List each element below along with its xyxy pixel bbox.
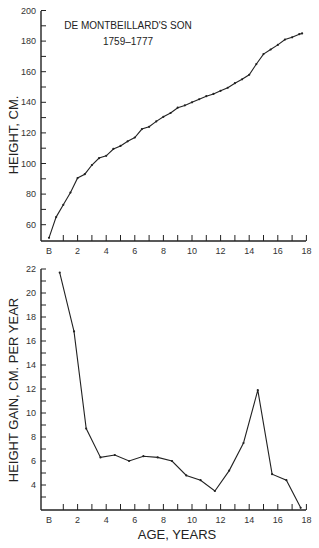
x-tick-label: 12 xyxy=(216,515,226,525)
data-point xyxy=(270,48,272,50)
x-tick-label: 10 xyxy=(187,515,197,525)
data-point xyxy=(59,272,61,274)
data-point xyxy=(157,456,159,458)
data-point xyxy=(69,191,71,193)
data-point xyxy=(48,237,50,239)
data-point xyxy=(284,38,286,40)
y-tick-label: 20 xyxy=(26,288,36,298)
height-gain-points xyxy=(59,272,302,509)
data-point xyxy=(185,474,187,476)
data-point xyxy=(91,164,93,166)
x-tick-label: 16 xyxy=(273,515,283,525)
x-tick-label: 16 xyxy=(273,246,283,256)
data-point xyxy=(248,74,250,76)
top-x-ticks: B24681012141618 xyxy=(46,235,311,256)
data-point xyxy=(228,470,230,472)
data-point xyxy=(271,473,273,475)
data-point xyxy=(285,479,287,481)
data-point xyxy=(105,155,107,157)
y-tick-label: 14 xyxy=(26,360,36,370)
data-point xyxy=(205,95,207,97)
x-tick-label: 6 xyxy=(132,515,137,525)
data-point xyxy=(119,145,121,147)
data-point xyxy=(85,428,87,430)
x-tick-label: 8 xyxy=(161,515,166,525)
x-tick-label: 18 xyxy=(301,246,311,256)
x-tick-label: 10 xyxy=(187,246,197,256)
data-point xyxy=(141,128,143,130)
y-tick-label: 18 xyxy=(26,312,36,322)
data-point xyxy=(55,216,57,218)
bottom-y-ticks: 46810121416182022 xyxy=(26,264,46,497)
data-point xyxy=(241,78,243,80)
y-tick-label: 12 xyxy=(26,384,36,394)
bottom-y-axis-title: HEIGHT GAIN, CM. PER YEAR xyxy=(6,298,21,482)
x-axis-title: AGE, YEARS xyxy=(138,527,217,542)
data-point xyxy=(169,112,171,114)
y-tick-label: 100 xyxy=(21,159,36,169)
x-tick-label: 8 xyxy=(161,246,166,256)
x-tick-label: 14 xyxy=(244,246,254,256)
data-point xyxy=(148,126,150,128)
data-point xyxy=(155,120,157,122)
data-point xyxy=(214,490,216,492)
x-tick-label: 18 xyxy=(301,515,311,525)
data-point xyxy=(262,53,264,55)
y-tick-label: 140 xyxy=(21,97,36,107)
top-y-ticks: 6080100120140160180200 xyxy=(21,6,46,230)
data-point xyxy=(134,136,136,138)
data-point xyxy=(77,177,79,179)
x-tick-label: 4 xyxy=(104,246,109,256)
data-point xyxy=(142,455,144,457)
data-point xyxy=(300,507,302,509)
data-point xyxy=(301,32,303,34)
x-tick-label: 6 xyxy=(132,246,137,256)
y-tick-label: 8 xyxy=(31,432,36,442)
y-tick-label: 200 xyxy=(21,6,36,16)
x-tick-label: 12 xyxy=(216,246,226,256)
data-point xyxy=(199,479,201,481)
data-point xyxy=(84,173,86,175)
data-point xyxy=(99,456,101,458)
data-point xyxy=(128,460,130,462)
y-tick-label: 4 xyxy=(31,480,36,490)
x-tick-label: 4 xyxy=(104,515,109,525)
data-point xyxy=(212,93,214,95)
height-line xyxy=(49,33,302,238)
x-tick-label: 2 xyxy=(75,515,80,525)
x-tick-label: B xyxy=(46,515,52,525)
data-point xyxy=(220,90,222,92)
y-tick-label: 120 xyxy=(21,128,36,138)
chart-title: DE MONTBEILLARD'S SON xyxy=(64,20,192,31)
data-point xyxy=(184,104,186,106)
data-point xyxy=(162,116,164,118)
data-point xyxy=(98,157,100,159)
data-point xyxy=(191,101,193,103)
y-tick-label: 60 xyxy=(26,220,36,230)
y-tick-label: 80 xyxy=(26,189,36,199)
height-chart: 6080100120140160180200 B24681012141618 D… xyxy=(6,6,311,257)
data-point xyxy=(73,330,75,332)
y-tick-label: 6 xyxy=(31,456,36,466)
height-points xyxy=(48,32,303,239)
y-tick-label: 180 xyxy=(21,36,36,46)
bottom-x-ticks: B24681012141618 xyxy=(46,504,311,525)
data-point xyxy=(114,454,116,456)
data-point xyxy=(255,63,257,65)
data-point xyxy=(171,460,173,462)
data-point xyxy=(291,36,293,38)
data-point xyxy=(277,44,279,46)
data-point xyxy=(112,148,114,150)
data-point xyxy=(234,82,236,84)
height-gain-chart: 46810121416182022 B24681012141618 HEIGHT… xyxy=(6,264,311,542)
data-point xyxy=(298,33,300,35)
data-point xyxy=(177,107,179,109)
x-tick-label: 2 xyxy=(75,246,80,256)
y-tick-label: 10 xyxy=(26,408,36,418)
chart-subtitle: 1759–1777 xyxy=(103,36,153,47)
data-point xyxy=(198,98,200,100)
data-point xyxy=(127,140,129,142)
x-tick-label: 14 xyxy=(244,515,254,525)
height-gain-line xyxy=(60,273,301,508)
top-y-axis-title: HEIGHT, CM. xyxy=(6,96,21,175)
